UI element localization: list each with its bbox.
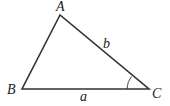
vertex-label-C: C (152, 86, 162, 101)
angle-C-arc (127, 77, 131, 89)
triangle-diagram: A B C b a (0, 0, 170, 106)
side-label-b: b (103, 36, 110, 51)
side-label-a: a (80, 89, 87, 104)
vertex-label-A: A (55, 0, 65, 14)
vertex-label-B: B (7, 82, 16, 97)
